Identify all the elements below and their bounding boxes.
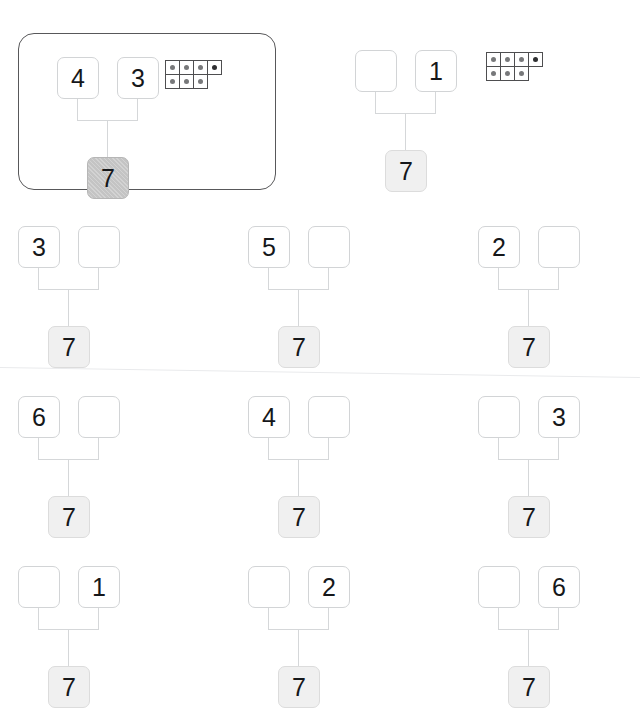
bond-connector-left-stem	[38, 268, 39, 290]
ten-frame-top-row	[166, 60, 222, 75]
bond-connector-drop	[107, 120, 108, 158]
part-left-value-box: 4	[57, 57, 99, 99]
ten-frame-cell	[486, 52, 501, 67]
ten-frame-cell	[514, 52, 529, 67]
bond-connector-left-stem	[268, 268, 269, 290]
ten-frame-empty-cell	[207, 74, 222, 89]
bond-connector-right-stem	[558, 608, 559, 630]
ten-frame-no-dot	[533, 71, 538, 76]
number-bond: 27	[248, 566, 368, 713]
ten-frame-cell	[207, 60, 222, 75]
ten-frame-top-row	[487, 52, 543, 67]
part-right-value-box: 3	[117, 57, 159, 99]
part-right-answer-box[interactable]	[308, 396, 350, 438]
part-right-answer-box[interactable]	[78, 226, 120, 268]
part-left-value-box: 5	[248, 226, 290, 268]
ten-frame-bottom-row	[487, 67, 543, 81]
counter-dot-icon	[198, 79, 203, 84]
ten-frame-cell	[165, 60, 180, 75]
total-box: 7	[278, 666, 320, 708]
part-right-value-box: 1	[78, 566, 120, 608]
part-right-value-box: 3	[538, 396, 580, 438]
ten-frame-cell	[165, 74, 180, 89]
ten-frame-cell	[193, 60, 208, 75]
number-bond-example: 437	[57, 57, 177, 212]
bond-connector-drop	[298, 629, 299, 667]
ten-frame-cell	[179, 74, 194, 89]
total-box: 7	[278, 326, 320, 368]
bond-connector-drop	[528, 289, 529, 327]
bond-connector-drop	[405, 113, 406, 151]
ten-frame-cell	[486, 66, 501, 81]
total-box: 7	[508, 496, 550, 538]
counter-dot-icon	[491, 71, 496, 76]
bond-connector-right-stem	[98, 268, 99, 290]
ten-frame	[487, 52, 543, 81]
ten-frame-cell	[179, 60, 194, 75]
counter-dot-icon	[533, 57, 538, 62]
part-right-value-box: 6	[538, 566, 580, 608]
total-box: 7	[508, 666, 550, 708]
bond-connector-right-stem	[558, 268, 559, 290]
part-left-value-box: 2	[478, 226, 520, 268]
bond-connector-right-stem	[558, 438, 559, 460]
part-left-answer-box[interactable]	[478, 566, 520, 608]
counter-dot-icon	[184, 79, 189, 84]
counter-dot-icon	[505, 71, 510, 76]
bond-connector-left-stem	[268, 438, 269, 460]
ten-frame-no-dot	[212, 79, 217, 84]
number-bond: 67	[18, 396, 138, 551]
bond-connector-right-stem	[328, 438, 329, 460]
counter-dot-icon	[198, 65, 203, 70]
bond-connector-left-stem	[375, 92, 376, 114]
counter-dot-icon	[212, 65, 217, 70]
bond-connector-right-stem	[137, 99, 138, 121]
bond-connector-left-stem	[38, 608, 39, 630]
number-bond: 57	[248, 226, 368, 381]
counter-dot-icon	[491, 57, 496, 62]
counter-dot-icon	[184, 65, 189, 70]
number-bond: 17	[18, 566, 138, 713]
counter-dot-icon	[170, 79, 175, 84]
part-left-answer-box[interactable]	[18, 566, 60, 608]
part-right-value-box: 2	[308, 566, 350, 608]
part-right-answer-box[interactable]	[308, 226, 350, 268]
bond-connector-left-stem	[268, 608, 269, 630]
total-box: 7	[508, 326, 550, 368]
bond-connector-left-stem	[498, 268, 499, 290]
total-box: 7	[48, 496, 90, 538]
ten-frame-bottom-row	[166, 75, 222, 89]
ten-frame-cell	[500, 66, 515, 81]
number-bond: 17	[355, 50, 475, 205]
counter-dot-icon	[519, 57, 524, 62]
bond-connector-right-stem	[328, 268, 329, 290]
number-bond: 47	[248, 396, 368, 551]
bond-connector-drop	[528, 459, 529, 497]
bond-connector-drop	[68, 629, 69, 667]
bond-connector-right-stem	[98, 438, 99, 460]
bond-connector-left-stem	[77, 99, 78, 121]
part-left-value-box: 4	[248, 396, 290, 438]
total-box: 7	[385, 150, 427, 192]
part-left-answer-box[interactable]	[478, 396, 520, 438]
bond-connector-right-stem	[328, 608, 329, 630]
bond-connector-left-stem	[498, 438, 499, 460]
part-right-value-box: 1	[415, 50, 457, 92]
ten-frame-cell	[193, 74, 208, 89]
part-right-answer-box[interactable]	[538, 226, 580, 268]
part-left-value-box: 6	[18, 396, 60, 438]
bond-connector-left-stem	[38, 438, 39, 460]
ten-frame	[166, 60, 222, 89]
bond-connector-drop	[528, 629, 529, 667]
part-left-answer-box[interactable]	[355, 50, 397, 92]
bond-connector-right-stem	[98, 608, 99, 630]
ten-frame-empty-cell	[528, 66, 543, 81]
bond-connector-left-stem	[498, 608, 499, 630]
number-bond: 27	[478, 226, 598, 381]
number-bond: 67	[478, 566, 598, 713]
part-right-answer-box[interactable]	[78, 396, 120, 438]
counter-dot-icon	[505, 57, 510, 62]
bond-connector-drop	[298, 459, 299, 497]
part-left-answer-box[interactable]	[248, 566, 290, 608]
